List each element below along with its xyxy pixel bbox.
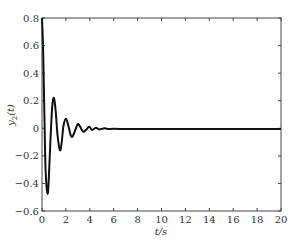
x-tick-label: 12 [179,214,192,225]
x-tick-label: 18 [251,214,264,225]
x-tick-label: 16 [227,214,240,225]
y-tick-label: 0.8 [23,13,39,24]
y-tick-label: −0.4 [15,178,39,189]
y-tick-label: 0.2 [23,95,39,106]
y-tick-label: 0.4 [23,68,39,79]
x-tick-label: 10 [155,214,168,225]
y-tick-label: −0.2 [15,150,39,161]
line-chart: 02468101214161820 −0.6−0.4−0.200.20.40.6… [0,0,295,248]
x-tick-label: 0 [39,214,45,225]
x-tick-label: 4 [87,214,93,225]
x-tick-label: 6 [111,214,117,225]
x-tick-label: 14 [203,214,216,225]
x-tick-label: 20 [275,214,288,225]
y-tick-label: 0 [33,123,39,134]
x-axis-label: t/s [155,226,168,237]
y-tick-label: −0.6 [15,206,39,217]
x-tick-label: 8 [134,214,140,225]
y-tick-label: 0.6 [23,40,39,51]
x-tick-label: 2 [63,214,69,225]
